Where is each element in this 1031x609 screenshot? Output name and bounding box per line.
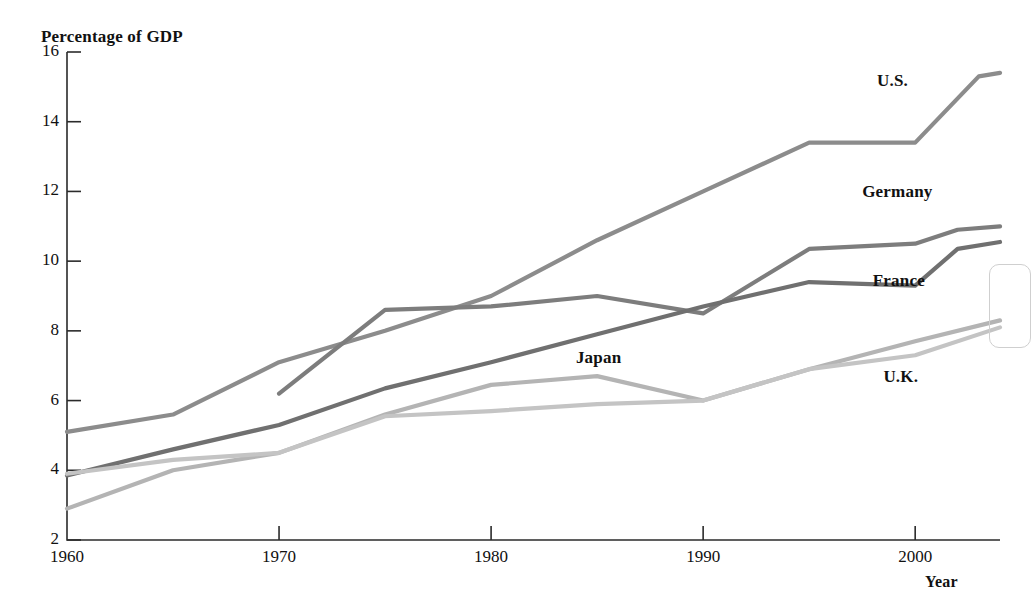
series-label-france: France [873,271,925,291]
series-line-us [67,73,1000,432]
x-tick-label-1990: 1990 [673,547,733,567]
y-tick-label-10: 10 [25,250,59,270]
scan-artifact-box [989,264,1031,348]
x-tick-label-1980: 1980 [461,547,521,567]
x-tick-label-1960: 1960 [37,547,97,567]
x-tick-label-2000: 2000 [885,547,945,567]
y-tick-label-4: 4 [25,459,59,479]
y-tick-label-16: 16 [25,41,59,61]
series-line-france [67,242,1000,476]
series-label-uk: U.K. [883,367,918,387]
series-label-japan: Japan [576,348,621,368]
y-tick-label-14: 14 [25,111,59,131]
series-line-japan [67,320,1000,508]
y-tick-label-8: 8 [25,320,59,340]
x-tick-label-1970: 1970 [249,547,309,567]
x-axis-title: Year [925,573,958,591]
series-lines [67,73,1000,509]
y-tick-label-2: 2 [25,529,59,549]
y-tick-label-6: 6 [25,390,59,410]
series-label-germany: Germany [862,182,932,202]
y-tick-label-12: 12 [25,180,59,200]
series-label-us: U.S. [877,71,908,91]
